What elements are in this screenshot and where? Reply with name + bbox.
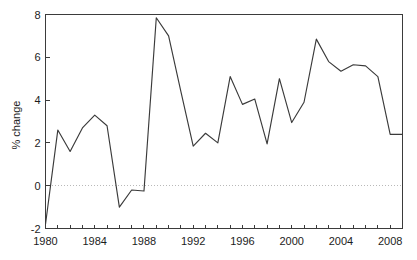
x-tick-label: 1988 [132,235,156,247]
y-tick-label: 6 [34,51,40,63]
chart-figure: -202468 19801984198819921996200020042008… [0,0,417,260]
y-tick-label: 4 [34,94,40,106]
x-tick-label: 2000 [279,235,303,247]
x-tick-label: 1984 [82,235,106,247]
x-tick-label: 1980 [33,235,57,247]
y-tick-label: -2 [31,223,41,235]
y-tick-label: 8 [34,9,40,21]
x-tick-label: 1992 [181,235,205,247]
x-tick-label: 2004 [329,235,353,247]
y-tick-label: 2 [34,137,40,149]
x-tick-label: 1996 [230,235,254,247]
y-axis-title: % change [10,101,22,150]
y-tick-label: 0 [34,180,40,192]
x-tick-label: 2008 [378,235,402,247]
chart-background [0,0,417,260]
line-chart: -202468 19801984198819921996200020042008… [0,0,417,260]
